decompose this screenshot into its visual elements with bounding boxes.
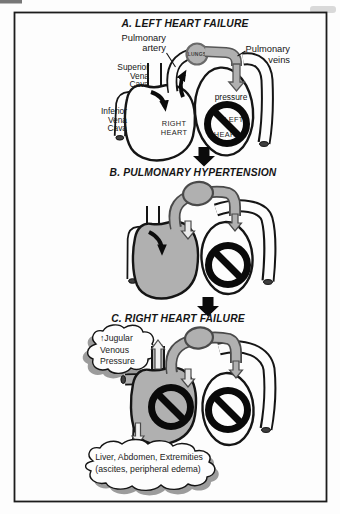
svc-label-3: Cava bbox=[129, 79, 149, 89]
panel-a-title: A. LEFT HEART FAILURE bbox=[120, 18, 249, 29]
ivc-open-end bbox=[116, 136, 124, 141]
aorta-open-end bbox=[260, 142, 269, 147]
right-heart-label-2: HEART bbox=[161, 128, 188, 137]
systemic-cloud-line-2: (ascites, peripheral edema) bbox=[95, 464, 200, 474]
aorta-open-end bbox=[264, 280, 273, 285]
ivc-label-3: Cava bbox=[107, 123, 127, 133]
panel-a: A. LEFT HEART FAILURE LUNGS bbox=[101, 18, 290, 160]
flow-arrow-icon bbox=[181, 74, 184, 97]
lungs-blob-b bbox=[182, 180, 215, 207]
cloud-systemic: Liver, Abdomen, Extremities (ascites, pe… bbox=[86, 440, 219, 496]
pulmonary-artery-label-2: artery bbox=[142, 43, 166, 53]
lungs-label: LUNGS bbox=[188, 51, 207, 57]
tube-open-end bbox=[121, 376, 126, 384]
systemic-cloud-line-1: Liver, Abdomen, Extremities bbox=[95, 452, 203, 462]
right-heart-label-1: RIGHT bbox=[162, 119, 187, 128]
pulmonary-veins-label-2: veins bbox=[268, 55, 290, 65]
panel-b-title: B. PULMONARY HYPERTENSION bbox=[110, 167, 277, 178]
jugular-cloud-line-1: ↑Jugular bbox=[100, 333, 133, 343]
pulmonary-artery-label-1: Pulmonary bbox=[122, 33, 167, 43]
panel-c: C. RIGHT HEART FAILURE ↑Jugular Venous P… bbox=[83, 313, 271, 495]
aorta-open-end bbox=[262, 428, 271, 433]
panel-b: B. PULMONARY HYPERTENSION bbox=[110, 167, 277, 299]
heart-failure-diagram: A. LEFT HEART FAILURE LUNGS bbox=[0, 0, 340, 514]
jugular-cloud-line-3: Pressure bbox=[100, 356, 135, 366]
pressure-label: pressure bbox=[215, 92, 248, 102]
figure-page: A. LEFT HEART FAILURE LUNGS bbox=[0, 0, 340, 514]
scan-artifact bbox=[0, 0, 22, 4]
lungs-blob-c bbox=[184, 326, 215, 351]
pulmonary-veins-label-1: Pulmonary bbox=[246, 44, 291, 54]
jugular-cloud-line-2: Venous bbox=[100, 345, 130, 355]
panel-c-title: C. RIGHT HEART FAILURE bbox=[111, 313, 246, 324]
